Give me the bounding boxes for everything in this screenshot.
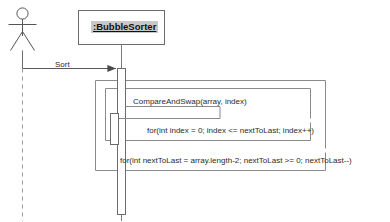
actor-head-icon	[17, 8, 28, 19]
inner-loop-label[interactable]: for(int index = 0; index <= nextToLast; …	[147, 127, 314, 135]
actor-stick-figure[interactable]	[9, 8, 37, 51]
actor-right-leg-line	[23, 32, 35, 51]
diagram-vector-layer	[0, 0, 390, 222]
object-label-bubblesorter[interactable]: :BubbleSorter	[91, 21, 158, 33]
activation-bar-compareandswap[interactable]	[111, 114, 119, 145]
outer-loop-label[interactable]: for(int nextToLast = array.length-2; nex…	[120, 157, 352, 165]
message-label-compareandswap[interactable]: CompareAndSwap(array, index)	[133, 98, 247, 106]
actor-left-leg-line	[11, 32, 23, 51]
sequence-diagram-canvas	[0, 0, 390, 222]
message-label-sort[interactable]: Sort	[55, 61, 70, 69]
